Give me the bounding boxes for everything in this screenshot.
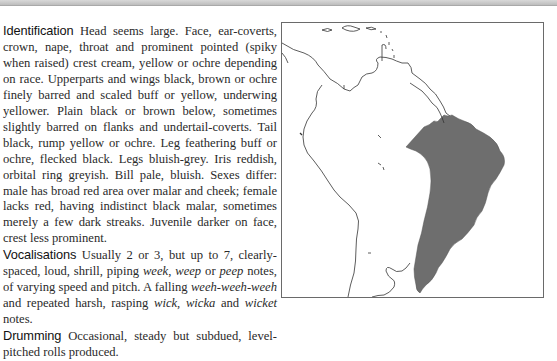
north-coast — [410, 83, 444, 123]
call-weep: weep — [175, 264, 201, 278]
vocalisations-text: and — [215, 296, 245, 310]
south-america-west-coast — [303, 85, 359, 297]
call-wicka: wicka — [186, 296, 215, 310]
call-week: week — [143, 264, 168, 278]
identification-paragraph: Identification Head seems large. Face, e… — [3, 23, 277, 247]
rio-de-la-plata-coast — [372, 263, 410, 297]
page-top-rule — [0, 0, 557, 6]
vocalisations-text: , — [177, 296, 186, 310]
range-map — [281, 22, 544, 298]
call-wicket: wicket — [245, 296, 277, 310]
range-map-graphic — [282, 23, 543, 297]
drumming-paragraph: Drumming Occasional, steady but subdued,… — [3, 328, 277, 361]
identification-heading: Identification — [3, 23, 73, 38]
species-text-column: Identification Head seems large. Face, e… — [3, 23, 277, 361]
vocalisations-paragraph: Vocalisations Usually 2 or 3, but up to … — [3, 247, 277, 328]
call-wick: wick — [154, 296, 177, 310]
inland-marks — [344, 85, 381, 138]
vocalisations-text: notes. — [3, 312, 33, 326]
inland-marks — [300, 133, 302, 135]
inland-marks — [378, 163, 384, 170]
central-america-coast — [282, 43, 456, 119]
yucatan-coast — [382, 45, 386, 62]
vocalisations-heading: Vocalisations — [3, 247, 76, 262]
vocalisations-text: and repeated harsh, rasping — [3, 296, 154, 310]
drumming-heading: Drumming — [3, 328, 61, 343]
call-peep: peep — [220, 264, 244, 278]
caribbean-islands — [322, 26, 394, 58]
vocalisations-text: or — [201, 264, 219, 278]
species-range-area — [406, 115, 505, 293]
mexico-coast — [282, 53, 288, 63]
identification-body: Head seems large. Face, ear-coverts, cro… — [3, 24, 277, 245]
call-weeh-weeh-weeh: weeh-weeh-weeh — [191, 280, 277, 294]
